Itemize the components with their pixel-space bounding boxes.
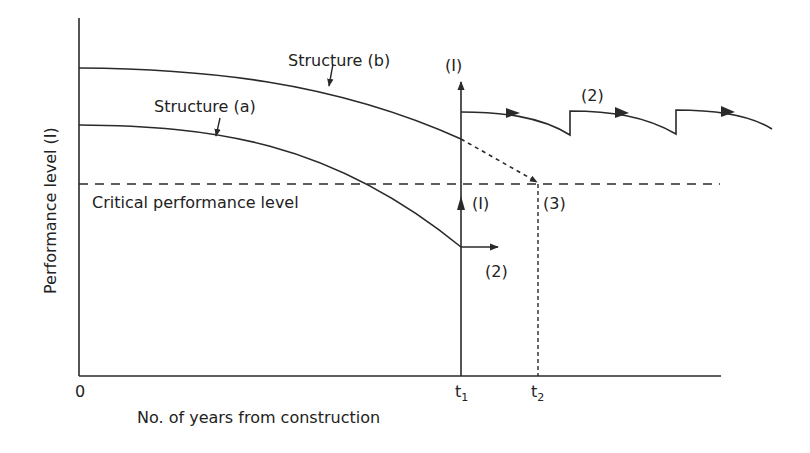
annotation-2-top: (2) xyxy=(581,86,604,105)
t2-label: t2 xyxy=(531,382,544,404)
structure-b-label: Structure (b) xyxy=(288,51,390,70)
structure-b-projected-decline xyxy=(461,139,537,182)
structure-a-leader xyxy=(216,118,220,136)
annotation-3: (3) xyxy=(543,194,566,213)
performance-diagram: Structure (b) Structure (a) Critical per… xyxy=(0,0,810,453)
annotation-2-bottom: (2) xyxy=(485,262,508,281)
annotation-1-top: (I) xyxy=(445,56,462,75)
structure-b-curve xyxy=(79,68,461,139)
origin-label: 0 xyxy=(75,382,85,401)
t1-label: t1 xyxy=(455,382,468,404)
up-arrow-icon xyxy=(457,196,465,210)
annotation-1-mid: (I) xyxy=(472,194,489,213)
structure-a-curve xyxy=(79,125,461,247)
y-axis-label: Performance level (I) xyxy=(41,127,60,294)
critical-level-label: Critical performance level xyxy=(92,193,299,212)
structure-a-label: Structure (a) xyxy=(154,97,256,116)
x-axis-label: No. of years from construction xyxy=(137,408,380,427)
